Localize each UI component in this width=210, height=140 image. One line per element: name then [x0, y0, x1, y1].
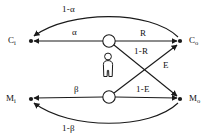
edge-label-beta: β: [74, 85, 79, 94]
edge-one-minus-alpha: [34, 17, 178, 37]
junction-top-node: [103, 35, 115, 47]
node-label-co: Co: [189, 36, 198, 45]
node-label-mo: Mo: [189, 94, 200, 103]
edge-one-minus-e: [115, 97, 177, 98]
node-label-mi: Mi: [6, 94, 16, 103]
diagram-canvas: 1-α α R 1-R E β 1-E 1-β Ci Co Mi Mo: [0, 0, 210, 140]
edge-label-alpha: α: [72, 28, 77, 37]
node-dot-ci: [29, 39, 33, 43]
node-label-mi-sub: i: [14, 97, 16, 104]
edge-label-one-minus-r: 1-R: [134, 47, 148, 56]
edge-one-minus-beta: [34, 103, 178, 123]
edge-beta: [34, 97, 103, 98]
edge-label-one-minus-beta: 1-β: [62, 124, 75, 133]
edge-label-one-minus-e: 1-E: [136, 85, 150, 94]
edge-label-r: R: [140, 29, 146, 38]
node-dot-co: [178, 39, 182, 43]
junction-bottom-node: [103, 91, 115, 103]
edge-label-one-minus-alpha: 1-α: [62, 5, 75, 14]
node-label-ci: Ci: [8, 36, 16, 45]
node-label-mo-base: M: [189, 93, 197, 103]
node-label-mo-sub: o: [197, 97, 200, 104]
node-label-mi-base: M: [6, 93, 14, 103]
diagram-graphics: [0, 0, 210, 140]
node-dot-mi: [29, 97, 33, 101]
node-label-ci-sub: i: [14, 39, 16, 46]
node-label-co-sub: o: [195, 39, 198, 46]
person-icon: [103, 53, 112, 76]
node-dot-mo: [178, 97, 182, 101]
edge-label-e: E: [163, 61, 169, 70]
